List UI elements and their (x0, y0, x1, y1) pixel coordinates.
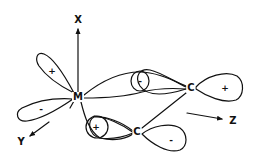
y-axis-label: Y (17, 137, 24, 147)
sign-carbon-lower-right-lobe: - (169, 136, 173, 145)
metal-upper-right-lobe (84, 72, 186, 95)
carbon-lower-atom-label: C (132, 127, 141, 137)
sign-metal-lower-lobe: + (92, 123, 100, 132)
z-axis-label: Z (229, 116, 236, 126)
sign-carbon-upper-right-lobe: + (221, 84, 229, 93)
carbon-upper-atom-label: C (186, 83, 195, 93)
metal-left-lobe (17, 99, 73, 121)
sign-metal-left-lobe: - (39, 105, 43, 114)
sign-metal-upper-left-lobe: + (48, 67, 56, 76)
carbon-upper-right-lobe (196, 74, 243, 101)
metal-bond-stub (70, 101, 74, 108)
z-axis-arrow (187, 113, 222, 119)
x-axis-label: X (74, 15, 82, 25)
sign-pi-upper-overlap-lobe: - (138, 77, 142, 86)
carbon-lower-right-lobe (142, 125, 186, 151)
carbon-carbon-bond (142, 93, 186, 128)
metal-atom-label: M (72, 92, 84, 102)
y-axis-arrow (30, 122, 49, 136)
orbital-diagram-drawing (0, 0, 259, 162)
orbital-diagram: X Y Z M C C + - + - + - (0, 0, 259, 162)
